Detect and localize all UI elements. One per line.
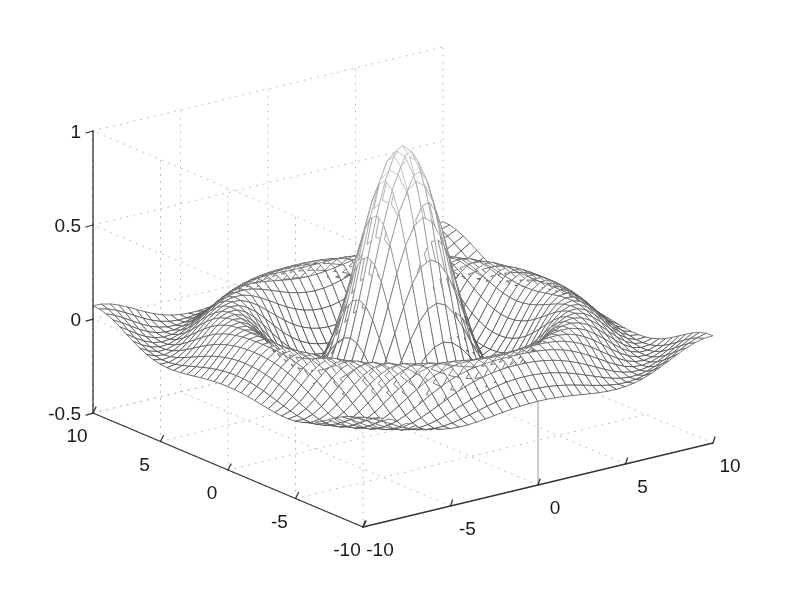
- z-tick-label-3: -0.5: [48, 404, 81, 423]
- z-tick-label-2: 0: [70, 310, 81, 329]
- x-tick-label-3: 5: [637, 477, 648, 496]
- y-tick-label-2: 0: [207, 483, 218, 502]
- figure-canvas: 10.50-0.51050-5-10-10-50510: [0, 0, 785, 604]
- z-tick-label-0: 1: [70, 122, 81, 141]
- y-tick-label-1: 5: [139, 454, 150, 473]
- x-tick-label-4: 10: [719, 456, 740, 475]
- y-tick-label-4: -10: [333, 540, 360, 559]
- x-tick-label-1: -5: [459, 519, 476, 538]
- y-tick-label-3: -5: [271, 511, 288, 530]
- x-tick-label-0: -10: [366, 540, 393, 559]
- surface-plot-canvas: [0, 0, 785, 604]
- z-tick-label-1: 0.5: [55, 216, 81, 235]
- x-tick-label-2: 0: [550, 498, 561, 517]
- y-tick-label-0: 10: [66, 426, 87, 445]
